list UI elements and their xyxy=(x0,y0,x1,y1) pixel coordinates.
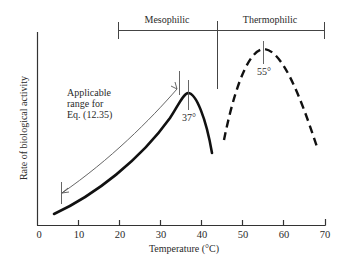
x-axis-label: Temperature (°C) xyxy=(149,243,219,255)
x-tick-label: 70 xyxy=(320,229,331,240)
peak-label-55: 55° xyxy=(257,66,271,77)
x-tick-labels: 0 10 20 30 40 50 60 70 xyxy=(36,229,330,240)
mesophilic-label: Mesophilic xyxy=(145,14,191,25)
y-axis-label: Rate of biological activity xyxy=(18,76,29,180)
temperature-activity-chart: 0 10 20 30 40 50 60 70 Temperature (°C) … xyxy=(0,0,343,262)
peak-label-37: 37° xyxy=(182,112,196,123)
x-tick-label: 10 xyxy=(74,229,85,240)
x-tick-label: 30 xyxy=(156,229,167,240)
x-tick-label: 40 xyxy=(197,229,208,240)
annotation-line: Applicable xyxy=(67,87,111,98)
x-tick-label: 50 xyxy=(238,229,249,240)
thermophilic-curve xyxy=(224,49,317,147)
x-tick-label: 60 xyxy=(279,229,290,240)
x-tick-label: 0 xyxy=(36,229,41,240)
annotation-line: Eq. (12.35) xyxy=(67,109,112,121)
range-brackets xyxy=(119,21,325,89)
x-tick-label: 20 xyxy=(115,229,126,240)
axes xyxy=(37,32,326,226)
annotation-text: Applicable range for Eq. (12.35) xyxy=(67,87,112,121)
annotation-line: range for xyxy=(67,98,104,109)
thermophilic-label: Thermophilic xyxy=(243,14,298,25)
